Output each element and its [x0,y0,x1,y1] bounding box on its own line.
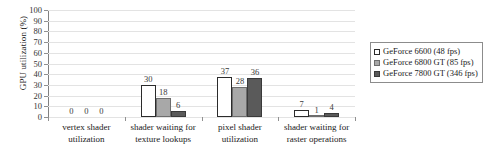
legend-swatch-icon [374,71,380,77]
x-axis-category-label-line: texture lookups [119,134,208,146]
y-axis-tick-mark [44,31,48,32]
y-axis-tick-label: 80 [2,27,42,36]
x-axis-category-label-line: pixel shader [196,122,285,134]
gridline [48,10,355,11]
plot-area: 00030186372836714 [48,10,355,117]
bar-value-label: 30 [136,75,160,84]
bar-value-label: 0 [89,107,113,116]
legend-item[interactable]: GeForce 6600 (48 fps) [374,46,478,57]
x-axis-category-label-line: utilization [196,134,285,146]
legend-swatch-icon [374,60,380,66]
y-axis-tick-label: 60 [2,49,42,58]
legend-swatch-icon [374,49,380,55]
x-axis-category-label: vertex shaderutilization [42,122,131,145]
y-axis-tick-mark [44,64,48,65]
x-axis-category-label: shader waiting fortexture lookups [119,122,208,145]
gridline [48,74,355,75]
bar [309,115,324,117]
y-axis-tick-mark [44,42,48,43]
y-axis-tick-label: 70 [2,38,42,47]
bar [247,78,262,117]
y-axis-tick-mark [44,74,48,75]
legend-item-label: GeForce 6600 (48 fps) [383,47,460,56]
gridline [48,21,355,22]
bar-value-label: 37 [213,67,237,76]
legend-item-label: GeForce 6800 GT (85 fps) [383,58,474,67]
legend-item-label: GeForce 7800 GT (346 fps) [383,69,478,78]
y-axis-tick-label: 90 [2,17,42,26]
x-axis-category-label-line: vertex shader [42,122,131,134]
x-axis-category-label-line: shader waiting for [272,122,361,134]
y-axis-tick-label: 50 [2,60,42,69]
legend-item[interactable]: GeForce 7800 GT (346 fps) [374,68,478,79]
y-axis-tick-label: 100 [2,6,42,15]
y-axis-tick-mark [44,53,48,54]
y-axis-tick-mark [44,106,48,107]
x-axis-category-label: shader waiting forraster operations [272,122,361,145]
y-axis-tick-label: 40 [2,70,42,79]
bar [324,113,339,117]
x-axis-tick-mark [355,117,356,121]
y-axis-tick-label: 30 [2,81,42,90]
chart-legend: GeForce 6600 (48 fps)GeForce 6800 GT (85… [370,42,483,83]
gridline [48,31,355,32]
y-axis-tick-mark [44,85,48,86]
y-axis-tick-label: 20 [2,92,42,101]
bar-value-label: 4 [320,103,344,112]
bar [171,111,186,117]
gridline [48,96,355,97]
y-axis-tick-labels: 1009080706050403020100 [0,0,42,155]
gridline [48,64,355,65]
bar-value-label: 36 [243,68,267,77]
x-axis-category-label: pixel shaderutilization [196,122,285,145]
bar-value-label: 18 [151,88,175,97]
x-axis-tick-mark [278,117,279,121]
bar-value-label: 6 [166,101,190,110]
x-axis-tick-mark [125,117,126,121]
legend-item[interactable]: GeForce 6800 GT (85 fps) [374,57,478,68]
gridline [48,42,355,43]
bar [232,87,247,117]
y-axis-tick-mark [44,96,48,97]
x-axis-category-label-line: shader waiting for [119,122,208,134]
x-axis-category-label-line: raster operations [272,134,361,146]
gridline [48,85,355,86]
x-axis-tick-mark [48,117,49,121]
y-axis-tick-mark [44,21,48,22]
x-axis-tick-mark [202,117,203,121]
y-axis-tick-mark [44,10,48,11]
gridline [48,53,355,54]
x-axis-category-label-line: utilization [42,134,131,146]
y-axis-tick-label: 0 [2,113,42,122]
y-axis-tick-label: 10 [2,102,42,111]
